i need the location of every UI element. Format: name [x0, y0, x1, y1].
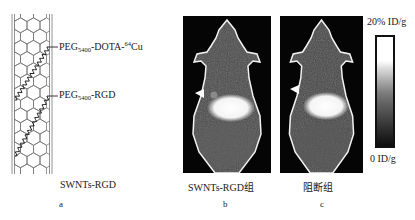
colorbar-min-label: 0 ID/g	[370, 153, 396, 164]
panel-a-letter: a	[59, 199, 63, 209]
annotation-peg-dota-cu: PEG5400-DOTA-64Cu	[59, 40, 143, 53]
colorbar-gradient	[377, 37, 393, 146]
mouse-scan-b	[183, 16, 271, 173]
panel-c-pet-image	[280, 16, 363, 173]
panel-b-caption: SWNTs-RGD组	[188, 179, 254, 194]
tumor-arrowhead-icon	[290, 85, 299, 94]
panel-b-letter: b	[223, 199, 228, 209]
colorbar-max-label: 20% ID/g	[367, 16, 406, 27]
colorbar	[375, 35, 395, 148]
annotation-peg-rgd: PEG5400-RGD	[59, 89, 115, 101]
panel-b-pet-image	[183, 16, 271, 173]
panel-c-letter: c	[320, 199, 324, 209]
panel-a-caption: SWNTs-RGD	[60, 179, 116, 190]
mouse-scan-c	[280, 16, 363, 173]
panel-a: PEG5400-DOTA-64Cu PEG5400-RGD SWNTs-RGD …	[0, 0, 180, 220]
panel-c-caption: 阻断组	[303, 179, 333, 194]
tumor-arrowhead-icon	[195, 89, 204, 98]
